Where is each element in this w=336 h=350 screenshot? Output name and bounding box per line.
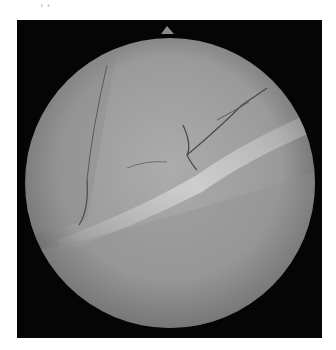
- cropped-caption-text: ¸ ¸: [40, 0, 50, 6]
- fundus-image: [17, 20, 322, 338]
- fundus-photo-frame: [17, 20, 322, 338]
